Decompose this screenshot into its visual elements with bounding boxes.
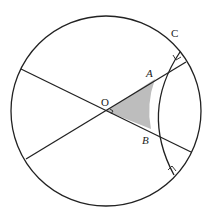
label-a: A (145, 67, 153, 79)
geometry-diagram: O A B C (0, 0, 206, 208)
shaded-region-oab (106, 79, 155, 129)
label-o: O (101, 96, 109, 108)
inner-arc (158, 52, 180, 175)
label-b: B (142, 134, 149, 146)
label-c: C (171, 27, 178, 39)
